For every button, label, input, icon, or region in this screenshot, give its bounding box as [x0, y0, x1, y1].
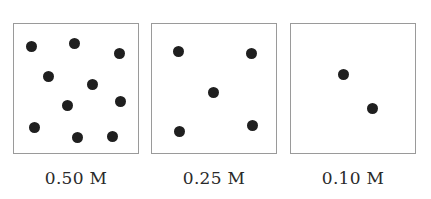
particle-dot — [29, 122, 40, 133]
particle-dot — [247, 120, 258, 131]
particle-dot — [72, 132, 83, 143]
label-0.25M: 0.25 M — [151, 168, 277, 188]
panel-0.50M — [13, 23, 139, 154]
particle-dot — [208, 87, 219, 98]
label-0.50M: 0.50 M — [13, 168, 139, 188]
particle-dot — [115, 96, 126, 107]
particle-dot — [338, 69, 349, 80]
particle-dot — [62, 100, 73, 111]
label-0.10M: 0.10 M — [290, 168, 416, 188]
particle-dot — [173, 46, 184, 57]
panel-0.10M — [290, 23, 416, 154]
panel-0.25M — [151, 23, 277, 154]
particle-dot — [87, 79, 98, 90]
particle-dot — [246, 48, 257, 59]
particle-dot — [114, 48, 125, 59]
particle-dot — [26, 41, 37, 52]
particle-dot — [367, 103, 378, 114]
particle-dot — [107, 131, 118, 142]
particle-dot — [43, 71, 54, 82]
particle-dot — [174, 126, 185, 137]
particle-dot — [69, 38, 80, 49]
